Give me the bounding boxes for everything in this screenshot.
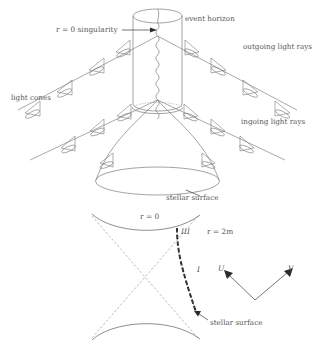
U-V-null-coordinate-axes — [224, 268, 293, 300]
label-axis-V: V — [288, 264, 295, 273]
leader-arrowhead — [194, 311, 201, 317]
light-cone — [183, 104, 199, 122]
stellar-surface-leader-lower — [194, 311, 208, 320]
label-outgoing-light-rays: outgoing light rays — [243, 42, 312, 51]
label-region-III: III — [180, 227, 191, 236]
label-axis-U: U — [218, 264, 225, 273]
stellar-surface-worldline — [177, 228, 196, 312]
wavy-singularity — [156, 23, 159, 119]
stellar-surface-base-ellipse — [96, 167, 220, 195]
light-cone-glyphs — [24, 40, 290, 170]
label-r-equals-zero: r = 0 — [140, 212, 159, 221]
light-cone — [184, 40, 199, 59]
event-horizon-cylinder — [133, 9, 182, 111]
label-stellar-surface-lower: stellar surface — [210, 318, 262, 327]
label-light-cones: light cones — [11, 93, 51, 102]
ray-lower-right — [158, 100, 286, 160]
label-region-I: I — [196, 265, 201, 274]
ingoing-light-rays-lower — [30, 100, 285, 160]
light-cone — [56, 80, 72, 99]
r-equals-zero-lower-singularity — [92, 324, 200, 340]
figure-container: r = 0 singularity event horizon outgoing… — [0, 0, 325, 351]
figure-svg: r = 0 singularity event horizon outgoing… — [0, 0, 325, 351]
label-r0-singularity: r = 0 singularity — [56, 25, 119, 34]
light-cone — [24, 101, 40, 120]
light-cone — [117, 104, 133, 122]
axis-V-line — [255, 272, 288, 300]
label-r-equals-2m: r = 2m — [207, 227, 233, 236]
singularity-arrow — [122, 28, 157, 33]
label-ingoing-light-rays: ingoing light rays — [241, 117, 305, 126]
ray-lower-left — [30, 100, 158, 160]
r-zero-singularity-wavy-line — [156, 23, 159, 119]
light-cone — [242, 80, 258, 99]
leader-line — [199, 314, 208, 320]
label-stellar-surface-upper: stellar surface — [166, 193, 218, 202]
label-event-horizon: event horizon — [185, 14, 235, 23]
lower-diagram: r = 0 r = 2m III I U V stellar surface — [92, 212, 295, 340]
funnel-neck-arc-back — [132, 102, 183, 108]
horizon-bottom-arc — [133, 104, 182, 111]
axis-U-line — [229, 275, 255, 300]
stellar-surface-worldline-inner — [177, 228, 196, 312]
light-cone — [116, 40, 131, 59]
light-cone — [61, 136, 77, 154]
stellar-surface-funnel — [96, 100, 220, 195]
light-cone — [210, 58, 226, 77]
upper-diagram: r = 0 singularity event horizon outgoing… — [11, 9, 312, 202]
horizon-seam-top — [158, 9, 159, 23]
light-cone — [239, 136, 255, 154]
light-cone — [88, 58, 104, 77]
